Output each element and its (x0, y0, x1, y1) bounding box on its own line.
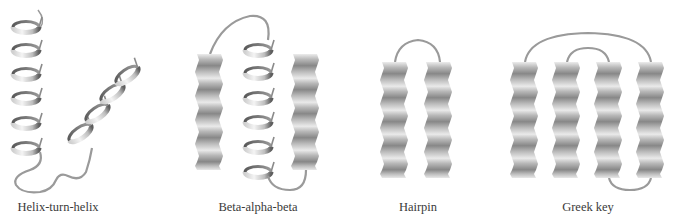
label-helix-turn-helix: Helix-turn-helix (17, 200, 98, 215)
hairpin-strand-1 (380, 62, 408, 178)
greek-key-strand-3 (594, 62, 622, 178)
hairpin-motif (380, 40, 452, 178)
helix-turn-helix-motif (13, 10, 143, 192)
label-greek-key: Greek key (562, 200, 614, 215)
bottom-loop (609, 178, 651, 190)
motifs-figure (0, 0, 674, 223)
beta-strand-1 (195, 54, 223, 170)
greek-key-strand-4 (636, 62, 664, 178)
inner-top-loop (567, 48, 609, 62)
bottom-connecting-loop (268, 170, 306, 190)
beta-alpha-beta-motif (195, 16, 319, 190)
vertical-alpha-helix (13, 10, 43, 154)
greek-key-strand-1 (510, 62, 538, 178)
hairpin-loop (395, 40, 440, 62)
alpha-helix (245, 40, 274, 178)
top-connecting-loop (210, 16, 269, 54)
greek-key-strand-2 (552, 62, 580, 178)
label-hairpin: Hairpin (399, 200, 437, 215)
label-beta-alpha-beta: Beta-alpha-beta (218, 200, 297, 215)
greek-key-motif (510, 33, 664, 190)
hairpin-strand-2 (424, 62, 452, 178)
beta-strand-2 (291, 54, 319, 170)
diagonal-alpha-helix (64, 58, 144, 145)
